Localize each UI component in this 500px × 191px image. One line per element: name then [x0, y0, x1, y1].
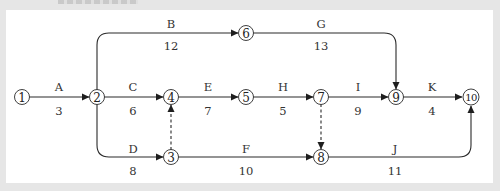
activity-name-D: D: [128, 142, 137, 156]
activity-duration-C: 6: [129, 104, 136, 118]
svg-text:7: 7: [317, 91, 325, 105]
activity-name-F: F: [242, 142, 250, 156]
edge-J: [328, 106, 471, 157]
activity-name-C: C: [129, 80, 138, 94]
svg-text:2: 2: [93, 91, 101, 105]
svg-text:5: 5: [242, 91, 250, 105]
node-10: 10: [463, 89, 479, 105]
svg-text:1: 1: [18, 91, 26, 105]
activity-duration-F: 10: [239, 164, 254, 178]
node-4: 4: [164, 90, 179, 105]
network-diagram: A 3 B 12 C 6 D 8 E 7 F 10 G 13 H 5 I 9 J…: [0, 0, 500, 191]
svg-text:4: 4: [167, 91, 175, 105]
activity-name-H: H: [278, 80, 288, 94]
activity-name-B: B: [167, 17, 175, 31]
activity-duration-H: 5: [279, 104, 286, 118]
activity-duration-I: 9: [354, 104, 361, 118]
activity-name-G: G: [316, 17, 325, 31]
node-8: 8: [314, 150, 329, 165]
svg-text:3: 3: [167, 151, 175, 165]
activity-name-A: A: [54, 80, 64, 94]
activity-duration-D: 8: [129, 164, 136, 178]
node-5: 5: [239, 90, 254, 105]
activity-duration-A: 3: [55, 104, 62, 118]
node-1: 1: [15, 90, 30, 105]
node-6: 6: [239, 26, 254, 41]
node-3: 3: [164, 150, 179, 165]
activity-duration-G: 13: [314, 39, 329, 53]
node-2: 2: [90, 90, 105, 105]
svg-text:6: 6: [242, 27, 250, 41]
activity-duration-J: 11: [388, 164, 403, 178]
activity-duration-B: 12: [164, 39, 179, 53]
activity-duration-E: 7: [204, 104, 211, 118]
activity-name-K: K: [428, 80, 437, 94]
activity-name-E: E: [204, 80, 212, 94]
svg-text:9: 9: [392, 91, 400, 105]
node-9: 9: [389, 90, 404, 105]
activity-name-I: I: [356, 80, 361, 94]
svg-text:10: 10: [465, 92, 477, 103]
activity-name-J: J: [392, 142, 398, 156]
svg-text:8: 8: [317, 151, 325, 165]
activity-duration-K: 4: [428, 104, 435, 118]
node-7: 7: [314, 90, 329, 105]
